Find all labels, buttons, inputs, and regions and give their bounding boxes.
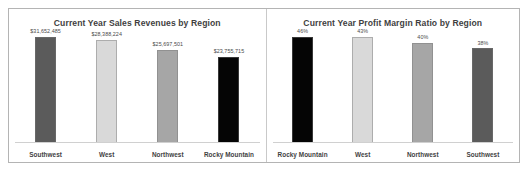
cat-slot: Rocky Mountain	[273, 143, 333, 161]
bar-northwest[interactable]	[412, 43, 433, 143]
x-label-southwest: Southwest	[29, 151, 62, 158]
bar-value-label: $31,652,485	[30, 28, 61, 35]
cat-slot: West	[76, 143, 137, 161]
bar-southwest[interactable]	[472, 48, 493, 143]
bar-west[interactable]	[96, 40, 117, 143]
x-axis-category-labels: Southwest West Northwest Rocky Mountain	[15, 145, 260, 159]
bar-value-label: 46%	[297, 28, 308, 35]
bar-value-label: $23,755,715	[214, 48, 245, 55]
plot-area-sales-revenues: $31,652,485 $28,388,224 $25,697,501 $23,…	[15, 28, 260, 162]
x-label-rocky-mountain: Rocky Mountain	[204, 151, 254, 158]
bar-group-west: 43%	[333, 28, 393, 143]
bar-group-west: $28,388,224	[76, 28, 137, 143]
cat-slot: Northwest	[137, 143, 198, 161]
bar-southwest[interactable]	[35, 37, 56, 144]
bar-value-label: $28,388,224	[91, 31, 122, 38]
dashboard-panel: Current Year Sales Revenues by Region $3…	[8, 8, 520, 163]
bar-group-southwest: $31,652,485	[15, 28, 76, 143]
bar-series-sales-revenues: $31,652,485 $28,388,224 $25,697,501 $23,…	[15, 28, 260, 143]
bar-northwest[interactable]	[157, 50, 178, 143]
x-label-west: West	[355, 151, 370, 158]
bar-value-label: 40%	[417, 34, 428, 41]
bar-group-rocky-mountain: 46%	[273, 28, 333, 143]
bar-value-label: $25,697,501	[153, 41, 184, 48]
x-label-northwest: Northwest	[152, 151, 184, 158]
x-label-northwest: Northwest	[407, 151, 439, 158]
x-label-southwest: Southwest	[467, 151, 500, 158]
cat-slot: Southwest	[15, 143, 76, 161]
bar-rocky-mountain[interactable]	[292, 37, 313, 144]
bar-rocky-mountain[interactable]	[218, 57, 239, 143]
chart-sales-revenues: Current Year Sales Revenues by Region $3…	[9, 9, 267, 162]
chart-profit-margin: Current Year Profit Margin Ratio by Regi…	[267, 9, 520, 162]
bar-series-profit-margin: 46% 43% 40% 38%	[273, 28, 514, 143]
x-axis-category-labels: Rocky Mountain West Northwest Southwest	[273, 145, 514, 159]
cat-slot: Rocky Mountain	[198, 143, 259, 161]
chart-title-profit-margin: Current Year Profit Margin Ratio by Regi…	[267, 18, 520, 28]
cat-slot: West	[333, 143, 393, 161]
bar-west[interactable]	[352, 37, 373, 144]
bar-group-southwest: 38%	[453, 28, 513, 143]
cat-slot: Northwest	[393, 143, 453, 161]
bar-value-label: 43%	[357, 28, 368, 35]
bar-value-label: 38%	[477, 40, 488, 47]
plot-area-profit-margin: 46% 43% 40% 38% Rocky Mountain	[273, 28, 514, 162]
chart-title-sales-revenues: Current Year Sales Revenues by Region	[9, 18, 266, 28]
bar-group-rocky-mountain: $23,755,715	[198, 28, 259, 143]
x-label-west: West	[99, 151, 114, 158]
bar-group-northwest: 40%	[393, 28, 453, 143]
cat-slot: Southwest	[453, 143, 513, 161]
bar-group-northwest: $25,697,501	[137, 28, 198, 143]
x-label-rocky-mountain: Rocky Mountain	[278, 151, 328, 158]
